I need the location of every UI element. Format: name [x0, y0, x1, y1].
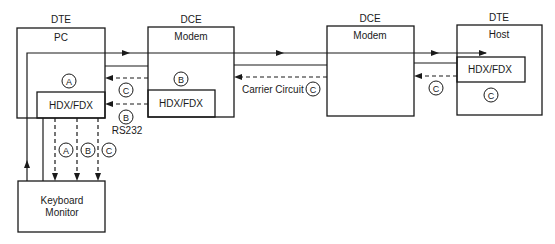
- pc-circle-a-label: A: [66, 77, 72, 87]
- modem1-label: Modem: [174, 31, 207, 42]
- kb-circle-c-label: C: [106, 146, 113, 156]
- modem1-circle-b-label: B: [178, 75, 184, 85]
- modem2-label: Modem: [353, 30, 386, 41]
- carrier-circuit-label: Carrier Circuit: [242, 84, 304, 95]
- link-circle-c-label: C: [123, 86, 130, 96]
- modem1-role-label: DCE: [180, 14, 201, 25]
- arrow-right-icon: [479, 50, 487, 56]
- host-role-label: DTE: [489, 12, 509, 23]
- arrow-right-icon: [122, 50, 130, 56]
- pc-hdx-fdx-label: HDX/FDX: [49, 100, 93, 111]
- carrier-circle-c-label: C: [310, 85, 317, 95]
- echo-path-diagram: DTE DCE DCE DTE PC HDX/FDX A Modem HDX/F…: [0, 0, 555, 244]
- pc-role-label: DTE: [51, 14, 71, 25]
- arrow-down-icon: [95, 173, 101, 181]
- modem2-role-label: DCE: [359, 13, 380, 24]
- keyboard-label: Keyboard: [41, 195, 84, 206]
- host-hdx-fdx-label: HDX/FDX: [468, 64, 512, 75]
- arrow-right-icon: [276, 50, 284, 56]
- rs232-label: RS232: [112, 125, 143, 136]
- arrow-right-icon: [431, 50, 439, 56]
- arrow-left-icon: [414, 73, 422, 79]
- modem1-hdx-fdx-label: HDX/FDX: [159, 98, 203, 109]
- arrow-down-icon: [74, 173, 80, 181]
- kb-circle-b-label: B: [85, 146, 91, 156]
- arrow-left-icon: [105, 75, 113, 81]
- kb-circle-a-label: A: [63, 146, 69, 156]
- pc-label: PC: [54, 32, 68, 43]
- host-circle-c-label: C: [488, 91, 495, 101]
- host-label: Host: [489, 29, 510, 40]
- monitor-label: Monitor: [45, 207, 79, 218]
- host-link-circle-c-label: C: [433, 84, 440, 94]
- arrow-up-icon: [24, 160, 30, 168]
- transmit-path-line: [27, 53, 486, 181]
- rs232-circle-b-label: B: [123, 113, 129, 123]
- arrow-left-icon: [105, 101, 113, 107]
- arrow-left-icon: [234, 74, 242, 80]
- arrow-down-icon: [52, 173, 58, 181]
